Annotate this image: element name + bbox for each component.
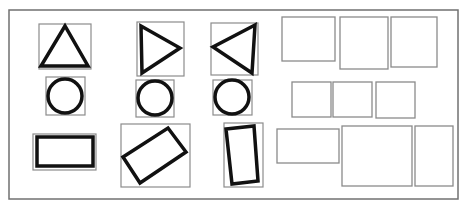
rectangle-horizontal[interactable] (33, 134, 96, 170)
placeholders-layer (277, 17, 453, 186)
triangle-up-bounding-box (39, 24, 91, 69)
placeholder-bottom-3[interactable] (415, 126, 453, 186)
placeholder-top-2[interactable] (340, 17, 388, 69)
triangle-left[interactable] (211, 23, 258, 75)
drawing-surface[interactable] (0, 0, 467, 209)
placeholder-top-1[interactable] (282, 17, 335, 61)
triangle-left-outline (213, 25, 255, 73)
shapes-layer (33, 22, 263, 187)
rectangle-rotated-outline (123, 128, 186, 183)
triangle-up-outline (41, 26, 88, 66)
circle-2[interactable] (136, 80, 174, 117)
placeholder-bottom-2[interactable] (342, 126, 412, 186)
shape-canvas (0, 0, 467, 209)
circle-1-outline (48, 79, 82, 113)
circle-3-outline (215, 80, 249, 114)
placeholder-mid-3[interactable] (376, 82, 415, 118)
triangle-right[interactable] (137, 22, 184, 76)
rectangle-rotated[interactable] (121, 124, 190, 187)
placeholder-mid-1[interactable] (292, 82, 331, 117)
placeholder-mid-2[interactable] (333, 82, 372, 117)
rectangle-vertical-outline (226, 126, 258, 184)
placeholder-bottom-1[interactable] (277, 129, 339, 163)
triangle-up[interactable] (39, 24, 91, 69)
circle-1[interactable] (46, 77, 85, 115)
circle-3[interactable] (213, 80, 252, 115)
placeholder-top-3[interactable] (391, 17, 437, 67)
circle-2-outline (138, 81, 172, 115)
rectangle-horizontal-outline (37, 137, 93, 166)
triangle-right-outline (141, 26, 180, 73)
rectangle-vertical[interactable] (224, 123, 263, 187)
